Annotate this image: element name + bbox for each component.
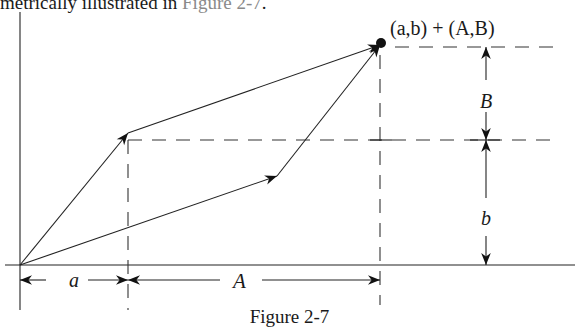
vector-AB	[20, 176, 277, 265]
vector-ab-translated	[277, 45, 380, 176]
figure-caption: Figure 2-7	[0, 306, 579, 328]
sum-point	[376, 38, 386, 48]
label-b: b	[481, 207, 491, 229]
sum-label: (a,b) + (A,B)	[390, 17, 495, 40]
vector-AB-translated	[128, 45, 380, 133]
vector-addition-diagram: (a,b) + (A,B) a A B b	[0, 0, 579, 334]
label-a: a	[69, 269, 79, 291]
label-B: B	[480, 90, 492, 112]
vector-ab	[20, 133, 128, 265]
label-A: A	[231, 269, 246, 293]
